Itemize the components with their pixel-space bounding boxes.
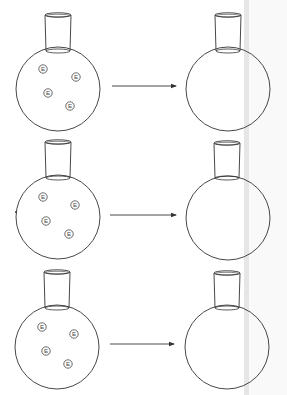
- particle-e: E: [42, 217, 50, 225]
- diagram-row-3: EEEE: [15, 270, 269, 389]
- particle-e: E: [39, 65, 47, 73]
- flask-bulb: [15, 305, 99, 389]
- flask-with-particles: [15, 270, 99, 389]
- particle-e: E: [71, 201, 79, 209]
- particle-label: E: [68, 102, 72, 109]
- flask-with-particles: [16, 140, 100, 259]
- flask-diagram: EEEEEEEEEEEE: [0, 0, 287, 395]
- particle-label: E: [72, 330, 76, 337]
- particle-e: E: [65, 230, 73, 238]
- edge-mark: [15, 211, 17, 213]
- particle-e: E: [44, 89, 52, 97]
- flask-bulb: [185, 305, 269, 389]
- particle-e: E: [64, 360, 72, 368]
- particle-label: E: [44, 217, 48, 224]
- particle-label: E: [41, 193, 45, 200]
- flask-bulb: [186, 176, 270, 260]
- particle-label: E: [73, 201, 77, 208]
- particle-e: E: [42, 347, 50, 355]
- flask-bulb: [186, 47, 270, 131]
- particle-label: E: [46, 89, 50, 96]
- particle-e: E: [70, 330, 78, 338]
- particle-label: E: [74, 73, 78, 80]
- flask-bulb: [16, 175, 100, 259]
- particle-label: E: [44, 347, 48, 354]
- particle-label: E: [41, 65, 45, 72]
- particle-e: E: [66, 102, 74, 110]
- diagram-row-2: EEEE: [16, 140, 270, 260]
- particle-label: E: [66, 360, 70, 367]
- empty-flask: [186, 13, 270, 131]
- flask-with-particles: [16, 13, 100, 131]
- empty-flask: [185, 271, 269, 389]
- flask-bulb: [16, 47, 100, 131]
- particle-label: E: [40, 323, 44, 330]
- empty-flask: [186, 141, 270, 260]
- particle-e: E: [72, 73, 80, 81]
- diagram-row-1: EEEE: [16, 13, 270, 131]
- particle-label: E: [67, 230, 71, 237]
- particle-e: E: [38, 323, 46, 331]
- particle-e: E: [39, 193, 47, 201]
